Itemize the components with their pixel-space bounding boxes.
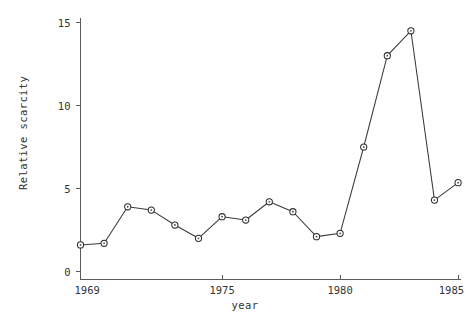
data-point-center bbox=[457, 182, 459, 184]
data-point-center bbox=[103, 242, 105, 244]
x-axis-tick-labels: 1969197519801985 bbox=[75, 284, 465, 296]
data-point-center bbox=[150, 209, 152, 211]
data-point-center bbox=[268, 201, 270, 203]
data-point-center bbox=[80, 244, 82, 246]
data-point-center bbox=[386, 55, 388, 57]
y-axis-ticks bbox=[76, 23, 81, 272]
x-tick-label: 1980 bbox=[327, 284, 352, 296]
y-axis-tick-labels: 051015 bbox=[58, 17, 71, 278]
chart-figure: 051015 1969197519801985 Relative scarcit… bbox=[0, 0, 465, 320]
data-point-center bbox=[363, 146, 365, 148]
y-tick-label: 10 bbox=[58, 100, 71, 112]
data-point-center bbox=[292, 211, 294, 213]
line-chart-canvas: 051015 1969197519801985 Relative scarcit… bbox=[0, 0, 465, 320]
x-axis-ticks bbox=[81, 275, 459, 280]
y-tick-label: 0 bbox=[64, 266, 70, 278]
data-series-line bbox=[81, 31, 459, 245]
data-point-center bbox=[410, 30, 412, 32]
data-point-center bbox=[174, 224, 176, 226]
axes-group bbox=[81, 18, 462, 280]
x-tick-label: 1985 bbox=[439, 284, 464, 296]
y-tick-label: 5 bbox=[64, 183, 70, 195]
data-point-center bbox=[221, 216, 223, 218]
data-point-center bbox=[127, 206, 129, 208]
data-point-center bbox=[198, 237, 200, 239]
data-point-markers bbox=[77, 28, 461, 248]
data-point-center bbox=[434, 199, 436, 201]
x-tick-label: 1969 bbox=[75, 284, 100, 296]
x-tick-label: 1975 bbox=[209, 284, 234, 296]
y-axis-title: Relative scarcity bbox=[17, 76, 29, 190]
x-axis-title: year bbox=[232, 299, 259, 311]
data-point-center bbox=[339, 232, 341, 234]
y-tick-label: 15 bbox=[58, 17, 71, 29]
data-point-center bbox=[245, 219, 247, 221]
data-point-center bbox=[316, 236, 318, 238]
